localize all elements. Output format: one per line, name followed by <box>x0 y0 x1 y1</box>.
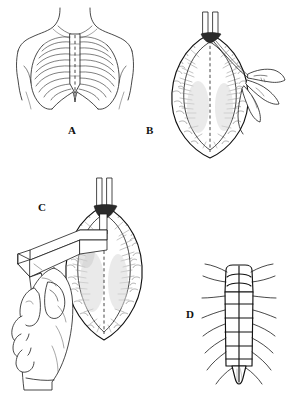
ribs-right <box>77 37 119 109</box>
retractor-blades <box>203 12 218 34</box>
panel-d-svg <box>196 262 282 388</box>
ribs-left <box>31 37 73 109</box>
panel-label-d: D <box>186 309 194 320</box>
figure-root: A <box>0 0 286 408</box>
panel-d-wired-sternum <box>196 262 282 388</box>
panel-a-thorax <box>10 8 140 128</box>
panel-c-svg <box>8 178 158 390</box>
panel-label-c: C <box>38 202 46 213</box>
panel-b-svg <box>148 12 286 162</box>
panel-a-svg <box>10 8 140 128</box>
panel-b-open-wound <box>148 12 286 162</box>
panel-label-b: B <box>146 125 154 136</box>
surgeon-hand-c <box>12 268 73 390</box>
panel-label-a: A <box>68 125 76 136</box>
panel-c-sternal-saw <box>8 178 158 390</box>
retractor-blades-c <box>97 178 112 206</box>
